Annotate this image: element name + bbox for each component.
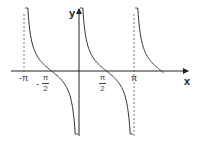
tick-label-neg-sign: - [36, 80, 39, 89]
y-axis-label: y [69, 7, 75, 19]
cotangent-plot [0, 0, 199, 143]
frac-den: 2 [43, 85, 47, 93]
tick-label-neg-pi-over-2: π 2 [42, 74, 49, 93]
frac-num: π [100, 74, 106, 82]
cot-branch-3 [135, 8, 164, 73]
tick-label-pi: π [131, 74, 137, 83]
frac-num: π [43, 74, 49, 82]
tick-label-neg-pi: -π [19, 74, 28, 83]
x-axis-label: x [184, 75, 190, 87]
tick-label-pi-over-2: π 2 [99, 74, 106, 93]
frac-den: 2 [100, 85, 104, 93]
